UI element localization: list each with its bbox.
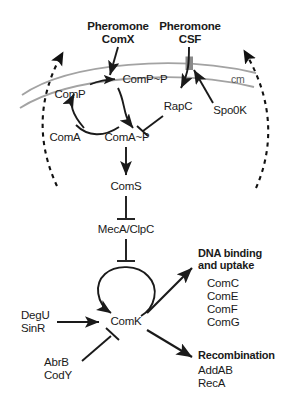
pathway-diagram: PheromoneComX PheromoneCSF ComP~P ComP c…: [0, 0, 288, 397]
output-dna-binding-title-line1: DNA binding: [198, 247, 262, 259]
node-spo0k: Spo0K: [213, 104, 247, 117]
pheromone-csf-line1: Pheromone: [159, 20, 220, 32]
repressor-cody: CodY: [44, 369, 72, 381]
inhibition-coms-to-meca: [117, 196, 135, 219]
pheromone-csf-line2: CSF: [179, 33, 201, 45]
gene-comc: ComC: [207, 277, 239, 289]
gene-reca: RecA: [198, 377, 225, 389]
activator-degu: DegU: [21, 309, 50, 321]
pheromone-csf-label: PheromoneCSF: [159, 20, 220, 46]
node-coms: ComS: [110, 180, 141, 193]
activator-sinr: SinR: [21, 322, 45, 334]
gene-comg: ComG: [207, 316, 239, 328]
pheromone-comx-label: PheromoneComX: [87, 20, 148, 46]
node-rapc: RapC: [164, 100, 193, 113]
node-coma-p: ComA~P: [104, 131, 149, 144]
regulator-activators: DegUSinR: [21, 309, 50, 335]
output-recombination-title: Recombination: [198, 349, 275, 361]
pheromone-comx-line1: Pheromone: [87, 20, 148, 32]
pathway-graphics: [0, 0, 288, 397]
node-comp: ComP: [54, 88, 85, 101]
output-dna-binding-title: DNA bindingand uptake: [198, 247, 262, 272]
arrow-comk-to-dna-binding: [147, 268, 192, 313]
regulator-repressors: AbrBCodY: [44, 356, 72, 382]
gene-addab: AddAB: [198, 364, 233, 376]
arrow-csf-through-membrane: [181, 47, 189, 88]
node-meca-clpc: MecA/ClpC: [98, 223, 154, 236]
pheromone-comx-line2: ComX: [102, 33, 134, 45]
arrow-comk-to-recombination: [147, 330, 192, 357]
output-recombination-genes: AddABRecA: [198, 364, 233, 390]
arrow-comx-to-comp-p: [110, 47, 118, 75]
node-coma: ComA: [49, 131, 80, 144]
inhibition-abrb-cody-to-comk: [82, 328, 119, 361]
gene-comf: ComF: [207, 303, 238, 315]
gene-come: ComE: [207, 290, 238, 302]
node-comk: ComK: [110, 315, 141, 328]
output-dna-binding-title-line2: and uptake: [198, 259, 254, 271]
output-dna-binding-genes: ComCComEComFComG: [207, 277, 239, 329]
pointer-spo0k-to-transporter: [194, 70, 213, 103]
inhibition-meca-to-comk: [117, 239, 135, 261]
membrane-cm-label: cm: [231, 74, 245, 86]
repressor-abrb: AbrB: [44, 356, 69, 368]
node-comp-p: ComP~P: [122, 73, 167, 86]
comk-autoregulation-loop: [98, 267, 155, 316]
